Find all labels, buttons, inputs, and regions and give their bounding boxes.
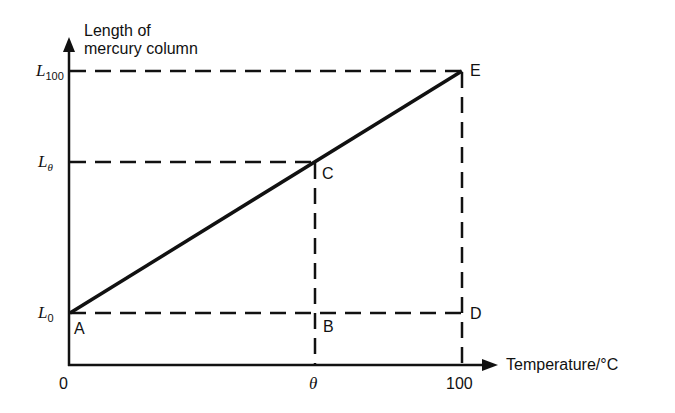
point-label-A: A	[74, 320, 85, 338]
guide-lines	[70, 71, 462, 365]
point-label-E: E	[470, 62, 481, 80]
y-axis-arrow-icon	[63, 37, 75, 52]
point-label-B: B	[323, 318, 334, 336]
x-axis-arrow-icon	[482, 359, 498, 371]
y-tick-L100: L100	[36, 62, 64, 85]
x-tick-0: 0	[59, 375, 68, 393]
x-tick-theta: θ	[309, 375, 317, 393]
y-tick-Ltheta: Lθ	[38, 153, 53, 176]
y-tick-L0: L0	[38, 304, 54, 327]
y-axis-label-line1: Length of	[84, 22, 151, 40]
data-line	[70, 71, 462, 313]
point-label-D: D	[470, 305, 482, 323]
point-label-C: C	[322, 165, 334, 183]
x-tick-100: 100	[446, 375, 473, 393]
y-axis-label-line2: mercury column	[84, 40, 198, 58]
chart-canvas	[0, 0, 675, 413]
x-axis-label: Temperature/°C	[506, 356, 618, 374]
